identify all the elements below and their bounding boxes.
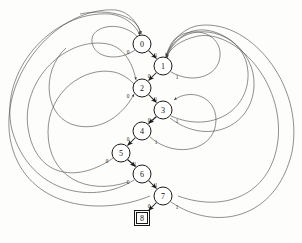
graph-svg: 0 : widest left sweep --> 2 : second lef… <box>0 0 302 243</box>
node-5-label: 5 <box>119 149 123 158</box>
edge-3-1-right-sweep <box>167 32 248 122</box>
edge-label-7-1: 1 <box>176 204 179 210</box>
edge-label-4-1: 1 <box>155 139 158 145</box>
edge-6-0-left-sweep <box>10 14 140 193</box>
edge-label-7-0: 0 <box>148 203 151 209</box>
edge-outer-right-arc <box>166 36 279 203</box>
node-4[interactable]: 4 <box>133 122 151 140</box>
edge-0-self-loop <box>92 26 139 57</box>
edge-label-4-0: 0 <box>127 136 130 142</box>
diagram-canvas: 0 : widest left sweep --> 2 : second lef… <box>0 0 302 243</box>
edge-label-5-0: 0 <box>106 158 109 164</box>
node-5[interactable]: 5 <box>112 144 130 162</box>
node-4-label: 4 <box>140 127 144 136</box>
edge-label-6-0: 0 <box>127 179 130 185</box>
node-7-label: 7 <box>161 192 165 201</box>
node-3-label: 3 <box>161 106 165 115</box>
edge-label-3-1: 1 <box>176 118 179 124</box>
node-2-label: 2 <box>140 84 144 93</box>
edge-label-1-1: 1 <box>176 74 179 80</box>
node-6-label: 6 <box>140 170 144 179</box>
node-6[interactable]: 6 <box>133 165 151 183</box>
node-8-label: 8 <box>140 214 144 223</box>
edge-label-0-0: 0 <box>127 49 130 55</box>
back-edges-left: 0 : widest left sweep --> 2 : second lef… <box>9 10 150 206</box>
node-0[interactable]: 0 <box>133 35 151 53</box>
edge-label-3-0: 0 <box>148 117 151 123</box>
node-0-label: 0 <box>140 40 144 49</box>
node-1-label: 1 <box>161 62 165 71</box>
edge-label-2-0: 0 <box>127 93 130 99</box>
edge-label-1-0: 0 <box>148 73 151 79</box>
node-3[interactable]: 3 <box>154 101 172 119</box>
edge-left-arc-to-2 <box>49 48 134 127</box>
node-8-terminal[interactable]: 8 <box>135 211 150 226</box>
edge-label-2-1: 1 <box>155 96 158 102</box>
back-edges-right: 1 : widest right sweep --> 1 : mid right… <box>150 25 294 217</box>
edge-label-6-1: 1 <box>155 182 158 188</box>
edge-7-1-right-sweep <box>166 25 294 217</box>
edge-3-outward-to-1 <box>166 30 254 132</box>
node-2[interactable]: 2 <box>133 79 151 97</box>
edge-1-self-right-loop <box>166 32 220 78</box>
edge-outer-left-arc-a <box>9 10 150 206</box>
edge-label-0-1: 1 <box>155 52 158 58</box>
node-1[interactable]: 1 <box>154 57 172 75</box>
node-7[interactable]: 7 <box>154 187 172 205</box>
edge-label-5-1: 1 <box>134 161 137 167</box>
